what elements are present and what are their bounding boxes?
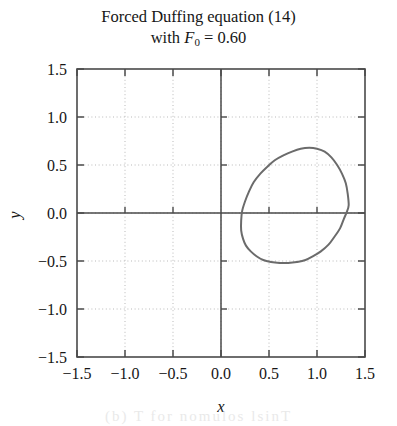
x-tick-label: −1.5 [62,365,91,382]
plot-canvas: −1.5−1.0−0.50.00.51.01.5 1.51.00.50.0−0.… [0,0,397,426]
chart-title-with-word: with [151,28,184,47]
x-tick-label: −1.0 [110,365,139,382]
x-tick-label: −0.5 [158,365,187,382]
duffing-phase-portrait-figure: Forced Duffing equation (14) with F0 = 0… [0,0,397,426]
forcing-amplitude-symbol: F [184,28,194,47]
x-tick-label: 1.5 [355,365,375,382]
x-tick-label: 0.5 [259,365,279,382]
y-tick-label: 1.0 [47,109,67,126]
x-axis-tick-labels: −1.5−1.0−0.50.00.51.01.5 [62,365,375,382]
y-axis-title: y [5,211,24,221]
x-tick-label: 1.0 [307,365,327,382]
y-tick-label: −0.5 [38,253,67,270]
x-tick-label: 0.0 [211,365,231,382]
chart-title-line-2: with F0 = 0.60 [0,27,397,49]
scan-bleedthrough-artifact: (b) T for nomulos lsinT [0,408,397,425]
chart-title-line-1: Forced Duffing equation (14) [0,6,397,27]
y-tick-label: 0.0 [47,205,67,222]
y-tick-label: −1.0 [38,301,67,318]
y-axis-tick-labels: 1.51.00.50.0−0.5−1.0−1.5 [38,61,67,366]
y-tick-label: −1.5 [38,349,67,366]
y-tick-label: 1.5 [47,61,67,78]
zero-axis-lines [77,69,365,357]
forcing-amplitude-value: = 0.60 [200,28,246,47]
y-tick-label: 0.5 [47,157,67,174]
chart-title: Forced Duffing equation (14) with F0 = 0… [0,6,397,49]
